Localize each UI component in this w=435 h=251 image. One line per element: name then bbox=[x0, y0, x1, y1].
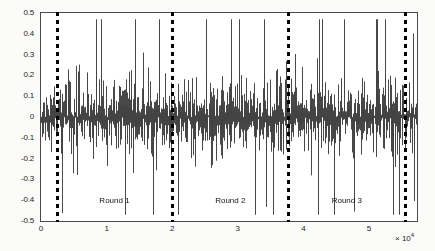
y-tick-label: 0.4 bbox=[0, 29, 34, 38]
y-tick-label: 0.3 bbox=[0, 50, 34, 59]
round-divider-4 bbox=[404, 12, 407, 222]
y-tick-label: 0.1 bbox=[0, 91, 34, 100]
y-tick-label: -0.5 bbox=[0, 216, 34, 225]
x-tick-label: 2 bbox=[162, 224, 182, 233]
region-label-round-3: Round 3 bbox=[317, 196, 377, 205]
round-divider-3 bbox=[287, 12, 290, 222]
y-tick-label: -0.2 bbox=[0, 154, 34, 163]
region-label-round-2: Round 2 bbox=[200, 196, 260, 205]
round-divider-2 bbox=[171, 12, 174, 222]
x-tick-label: 3 bbox=[228, 224, 248, 233]
y-tick-label: -0.3 bbox=[0, 174, 34, 183]
x-tick-label: 5 bbox=[359, 224, 379, 233]
x-tick-label: 0 bbox=[31, 224, 51, 233]
y-tick-label: 0.5 bbox=[0, 8, 34, 17]
plot-area bbox=[40, 12, 418, 222]
figure-container: 0.50.40.30.20.10-0.1-0.2-0.3-0.4-0.5 012… bbox=[0, 0, 435, 251]
y-tick-label: 0 bbox=[0, 112, 34, 121]
y-tick-label: -0.4 bbox=[0, 195, 34, 204]
y-tick-label: 0.2 bbox=[0, 70, 34, 79]
x-tick-label: 4 bbox=[293, 224, 313, 233]
signal-waveform bbox=[41, 13, 417, 221]
round-divider-1 bbox=[56, 12, 59, 222]
x-tick-label: 1 bbox=[97, 224, 117, 233]
region-label-round-1: Round 1 bbox=[84, 196, 144, 205]
y-tick-label: -0.1 bbox=[0, 133, 34, 142]
x-axis-exponent-label: × 104 bbox=[395, 232, 414, 243]
